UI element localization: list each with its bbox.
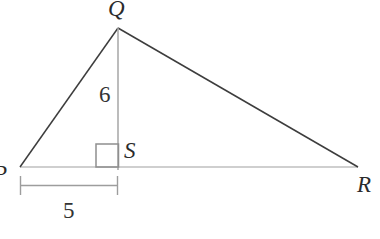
base-segment-length-label: 5 <box>63 199 75 222</box>
altitude-length-label: 6 <box>99 83 111 106</box>
point-label-s: S <box>124 139 136 162</box>
segment-QR <box>118 28 358 167</box>
dimension-bar-PS <box>20 176 118 195</box>
vertex-label-q: Q <box>108 0 125 20</box>
geometry-figure: P Q R S 6 5 <box>0 0 380 239</box>
vertex-label-r: R <box>357 173 371 196</box>
vertex-label-p: P <box>0 162 7 185</box>
right-angle-marker <box>96 144 119 167</box>
triangle-diagram-canvas <box>0 0 380 239</box>
